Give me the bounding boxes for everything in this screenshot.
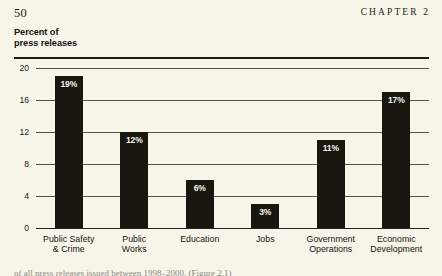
y-axis-tick-label: 20 <box>19 63 29 73</box>
figure-caption: of all press releases issued between 199… <box>14 268 429 276</box>
bar[interactable]: 11% <box>317 140 345 228</box>
bar[interactable]: 17% <box>382 92 410 228</box>
x-axis-category-label: PublicWorks <box>102 234 168 255</box>
bar[interactable]: 6% <box>186 180 214 228</box>
y-axis-tick-label: 16 <box>19 95 29 105</box>
x-axis-category-label: EconomicDevelopment <box>364 234 430 255</box>
bar-series: 19%12%6%3%11%17% <box>36 68 429 228</box>
y-axis-tick-label: 8 <box>24 159 29 169</box>
x-axis-category-label: GovernmentOperations <box>298 234 364 255</box>
x-axis-category-label: Public Safety& Crime <box>36 234 102 255</box>
bar-slot: 11% <box>298 68 364 228</box>
bar-value-label: 3% <box>251 207 279 217</box>
bar-value-label: 17% <box>382 95 410 105</box>
bar-value-label: 19% <box>55 79 83 89</box>
bar[interactable]: 12% <box>120 132 148 228</box>
category-label-line: Economic <box>364 234 430 244</box>
bar-value-label: 6% <box>186 183 214 193</box>
category-label-line: Public Safety <box>36 234 102 244</box>
category-label-line: Education <box>167 234 233 244</box>
gridline-0: 0 <box>36 228 429 229</box>
category-label-line: Operations <box>298 244 364 254</box>
bar-slot: 17% <box>364 68 430 228</box>
bar[interactable]: 3% <box>251 204 279 228</box>
bar-value-label: 11% <box>317 143 345 153</box>
category-label-line: Public <box>102 234 168 244</box>
category-label-line: Works <box>102 244 168 254</box>
y-axis-tick-label: 0 <box>24 223 29 233</box>
plot-area: 048121620 19%12%6%3%11%17% <box>36 68 429 228</box>
category-label-line: & Crime <box>36 244 102 254</box>
x-axis-category-label: Education <box>167 234 233 244</box>
x-axis-category-label: Jobs <box>233 234 299 244</box>
bar-slot: 6% <box>167 68 233 228</box>
y-axis-tick-label: 12 <box>19 127 29 137</box>
category-label-line: Government <box>298 234 364 244</box>
y-axis-tick-label: 4 <box>24 191 29 201</box>
bar-slot: 3% <box>233 68 299 228</box>
category-label-line: Jobs <box>233 234 299 244</box>
bar-value-label: 12% <box>120 135 148 145</box>
bar-chart-figure: 048121620 19%12%6%3%11%17% Public Safety… <box>0 0 442 276</box>
bar-slot: 12% <box>102 68 168 228</box>
category-label-line: Development <box>364 244 430 254</box>
bar[interactable]: 19% <box>55 76 83 228</box>
bar-slot: 19% <box>36 68 102 228</box>
